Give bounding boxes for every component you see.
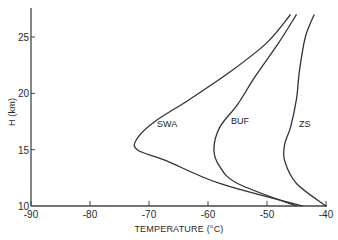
curve-buf xyxy=(214,14,297,206)
curve-label-zs: ZS xyxy=(299,119,311,129)
x-tick-label: -40 xyxy=(319,209,334,220)
curve-label-buf: BUF xyxy=(231,116,250,126)
y-tick-label: 25 xyxy=(18,32,30,43)
y-axis-title: H (km) xyxy=(7,98,17,126)
x-axis-title: TEMPERATURE (°C) xyxy=(134,224,223,234)
curve-labels: SWABUFZS xyxy=(157,116,311,129)
x-ticks: -90-80-70-60-50-40 xyxy=(24,201,334,220)
curve-label-swa: SWA xyxy=(157,119,177,129)
y-tick-label: 15 xyxy=(18,145,30,156)
y-ticks: 10152025 xyxy=(18,32,35,212)
x-tick-label: -80 xyxy=(83,209,98,220)
y-tick-label: 20 xyxy=(18,88,30,99)
curves xyxy=(134,14,326,206)
x-tick-label: -50 xyxy=(260,209,275,220)
y-tick-label: 10 xyxy=(18,201,30,212)
temperature-profile-chart: -90-80-70-60-50-40 10152025 SWABUFZS TEM… xyxy=(0,0,338,240)
curve-zs xyxy=(284,14,326,206)
x-tick-label: -70 xyxy=(142,209,157,220)
curve-swa xyxy=(134,14,302,206)
x-tick-label: -60 xyxy=(201,209,216,220)
